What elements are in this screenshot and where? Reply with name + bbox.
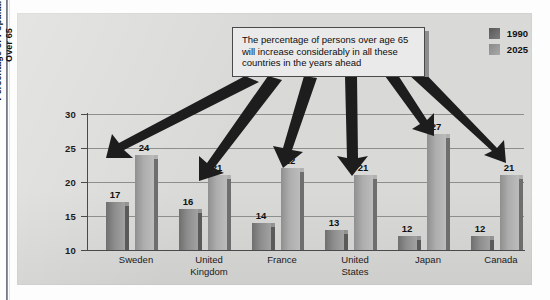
arrow-to-sweden	[106, 76, 259, 158]
arrow-to-us	[337, 76, 368, 176]
arrow-to-france	[273, 76, 317, 168]
arrow-to-uk	[199, 76, 282, 181]
callout-box[interactable]: The percentage of persons over age 65 wi…	[232, 27, 425, 77]
chart-figure: Percentage of Population Over 65 30 25 2…	[0, 0, 550, 300]
callout-text: The percentage of persons over age 65 wi…	[242, 34, 416, 69]
